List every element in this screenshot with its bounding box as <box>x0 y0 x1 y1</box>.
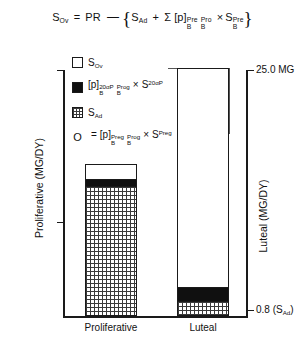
bar-segment-20ap <box>178 287 228 301</box>
right-value-bottom-num: 0.8 (S <box>256 304 283 315</box>
legend-swatch-white-icon <box>72 57 83 68</box>
category-label-proliferative: Proliferative <box>51 322 171 333</box>
legend-sov-symbol: S <box>88 57 95 68</box>
right-value-bottom-close: ) <box>290 304 293 315</box>
formula-bracket-p: [p] <box>174 11 187 23</box>
formula-plus: + <box>150 11 161 23</box>
formula-times: × <box>215 11 226 23</box>
formula-pr: PR <box>85 11 100 23</box>
formula-lhs-sub: Ov <box>60 17 69 24</box>
formula-pro-sub: B <box>201 24 212 31</box>
right-tick-0.8 <box>248 310 254 311</box>
bar-segment-sad <box>178 301 228 316</box>
right-value-label-top: 25.0 MG <box>256 64 294 75</box>
bottom-axis-line <box>63 316 248 318</box>
formula-term2-sub: B <box>233 24 244 31</box>
left-tick-2.5 <box>57 70 63 71</box>
formula-header: SOv = PR —{SAd + Σ [p]PreBProB ×SPreB} <box>0 8 305 31</box>
bar-segment-sad <box>86 186 136 315</box>
right-tick-25.0 <box>248 70 254 71</box>
chart-plot-area: 2.5 1.0 Proliferative (MG/DY) Luteal (MG… <box>63 70 248 318</box>
right-axis-title: Luteal (MG/DY) <box>257 136 269 296</box>
formula-minus: — <box>104 10 122 24</box>
bar-proliferative[interactable] <box>85 164 137 316</box>
right-axis-line <box>246 70 248 318</box>
formula-brace-close: } <box>244 8 253 29</box>
left-axis-title: Proliferative (MG/DY) <box>33 108 45 268</box>
formula-brace-open: { <box>122 8 131 29</box>
left-axis-line <box>63 70 65 318</box>
legend-sov-sub: Ov <box>95 62 103 69</box>
bar-segment-20ap <box>86 179 136 187</box>
bar-segment-sov <box>86 165 136 179</box>
formula-equals: = <box>72 11 83 23</box>
category-label-luteal: Luteal <box>158 322 248 333</box>
bar-segment-sov <box>178 69 228 286</box>
formula-term1-sub: Ad <box>139 17 148 24</box>
bar-luteal[interactable] <box>177 68 229 316</box>
formula-sigma: Σ <box>164 11 171 23</box>
left-tick-1.0 <box>57 222 63 223</box>
formula-term1: S <box>131 11 138 23</box>
formula-p-sub: B <box>187 24 198 31</box>
right-value-label-bottom: 0.8 (SAd) <box>256 304 294 315</box>
formula-lhs: S <box>52 11 59 23</box>
formula-term2: S <box>225 11 232 23</box>
